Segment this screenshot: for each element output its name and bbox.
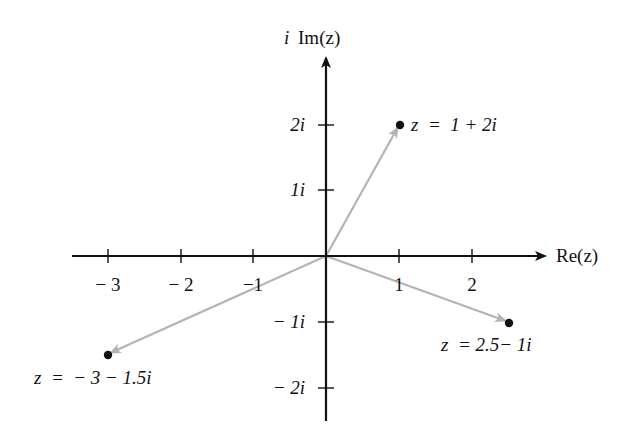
complex-plane-diagram: − 3 − 2 −1 1 2 2i 1i − 1i − 2i i Im(z) R…	[0, 0, 637, 442]
point-minus3-minus1.5i	[104, 351, 112, 359]
y-tick-label: 1i	[290, 179, 305, 200]
vectors	[110, 127, 506, 353]
vector-2.5-minus-1i	[326, 256, 506, 321]
x-tick-label: −1	[243, 274, 263, 295]
y-tick-label: − 2i	[273, 377, 305, 398]
vector-minus3-minus1.5i	[110, 256, 326, 353]
y-tick-label: − 1i	[273, 311, 305, 332]
real-axis-label: Re(z)	[556, 245, 598, 267]
x-tick-label: − 3	[96, 274, 121, 295]
vector-1-plus-2i	[326, 127, 398, 256]
x-tick-label: − 2	[169, 274, 194, 295]
imaginary-axis-label: i Im(z)	[284, 27, 340, 49]
x-tick-label: 1	[394, 274, 404, 295]
y-tick-label: 2i	[290, 114, 305, 135]
x-tick-label: 2	[467, 274, 477, 295]
point-label: z = 2.5− 1i	[440, 334, 532, 355]
point-label: z = − 3 − 1.5i	[33, 367, 152, 388]
point-1-plus-2i	[396, 121, 404, 129]
point-2.5-minus-1i	[505, 319, 513, 327]
point-label: z = 1 + 2i	[410, 114, 497, 135]
